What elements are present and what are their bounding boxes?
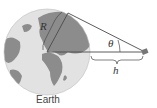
earth-caption: Earth [36, 95, 60, 105]
angle-label: θ [108, 38, 113, 49]
satellite [141, 48, 148, 55]
radius-label: R [40, 21, 47, 32]
angle-arc [118, 40, 120, 52]
height-label: h [113, 65, 119, 76]
earth-satellite-diagram: R θ h Earth [0, 0, 157, 108]
height-brace [91, 56, 143, 64]
diagram-svg [0, 0, 157, 108]
